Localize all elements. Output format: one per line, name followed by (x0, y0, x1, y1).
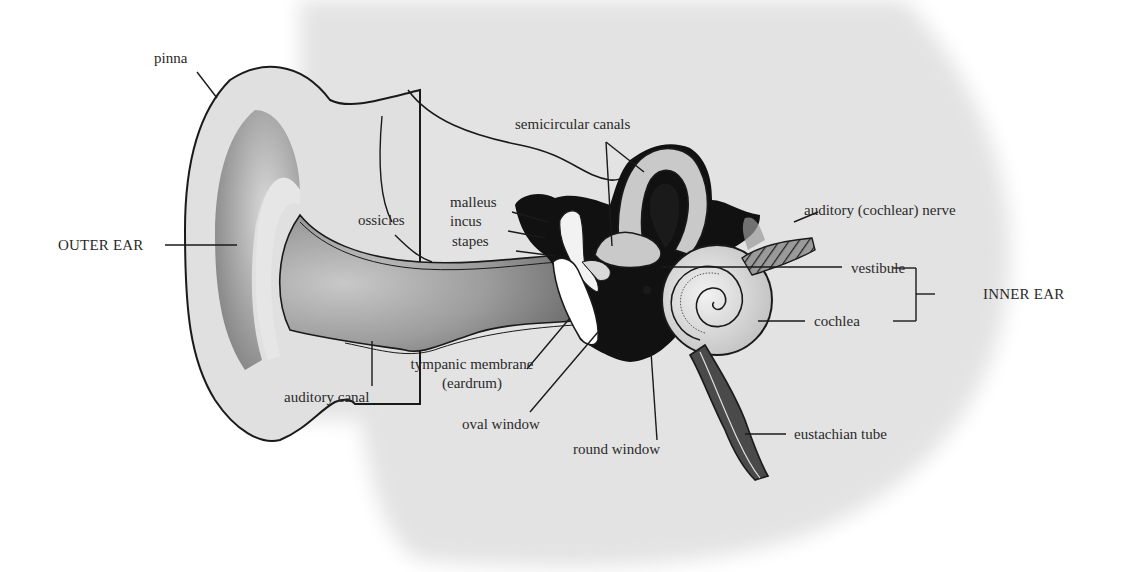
label-ossicles: ossicles (358, 213, 405, 228)
label-auditory-canal: auditory canal (284, 390, 369, 405)
label-outer-ear: OUTER EAR (58, 238, 144, 253)
label-malleus: malleus (450, 195, 497, 210)
label-eustachian-tube: eustachian tube (794, 427, 887, 442)
label-pinna: pinna (154, 51, 187, 66)
label-semicircular-canals: semicircular canals (515, 117, 630, 132)
label-cochlea: cochlea (814, 314, 860, 329)
label-vestibule: vestibule (851, 261, 905, 276)
label-tympanic-membrane-line1: tympanic membrane (392, 357, 552, 372)
label-tympanic-membrane: tympanic membrane (eardrum) (392, 357, 552, 391)
label-eardrum: (eardrum) (392, 376, 552, 391)
ear-illustration (0, 0, 1137, 572)
label-incus: incus (450, 214, 482, 229)
ear-anatomy-diagram: pinna OUTER EAR ossicles malleus incus s… (0, 0, 1137, 572)
label-auditory-nerve: auditory (cochlear) nerve (804, 203, 956, 218)
label-stapes: stapes (452, 234, 489, 249)
label-oval-window: oval window (462, 417, 540, 432)
label-round-window: round window (573, 442, 660, 457)
label-inner-ear: INNER EAR (983, 287, 1064, 302)
